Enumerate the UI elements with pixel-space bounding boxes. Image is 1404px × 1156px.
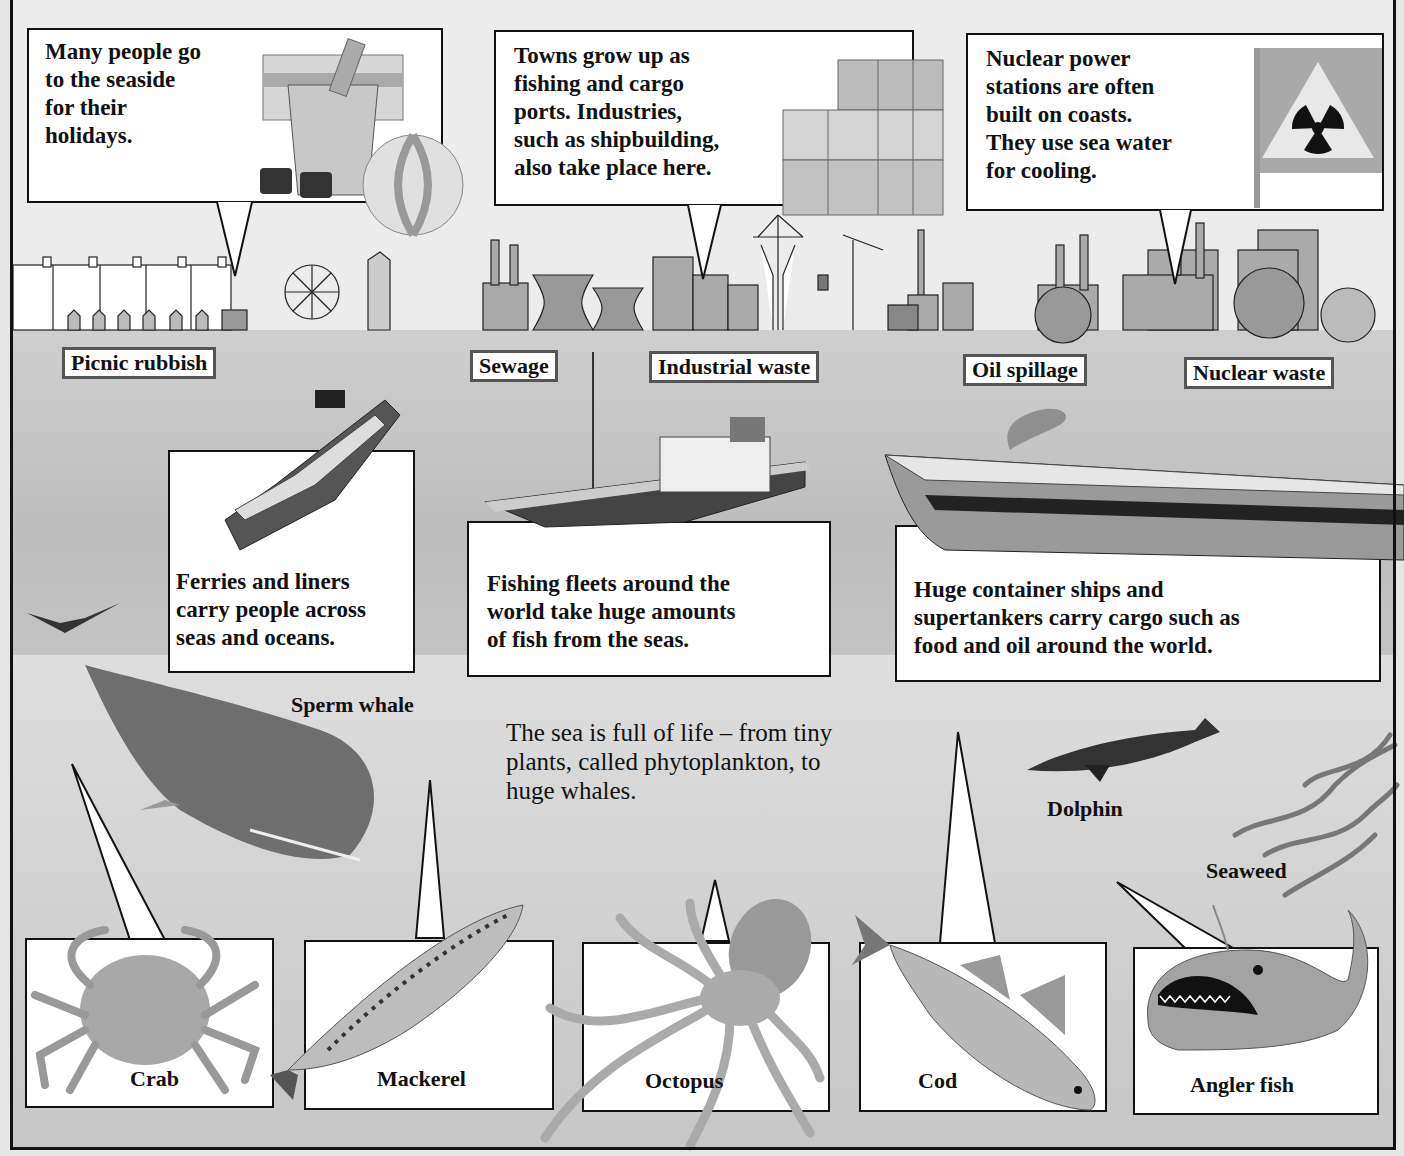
- page-frame: [10, 0, 1396, 1150]
